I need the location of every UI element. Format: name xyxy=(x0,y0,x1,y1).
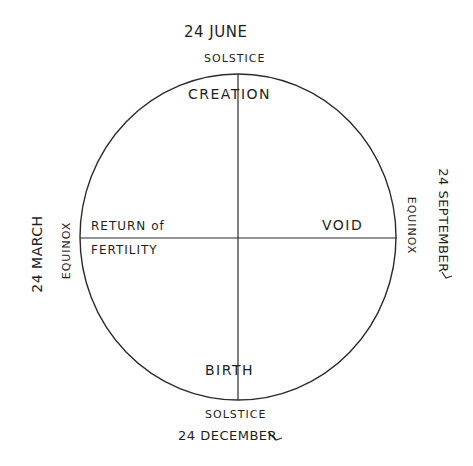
marker-winter-solstice: SOLSTICE xyxy=(205,409,266,420)
quadrant-return-of-fertility-line2: FERTILITY xyxy=(91,244,158,256)
date-june: 24 JUNE xyxy=(184,25,247,40)
quadrant-return-of-fertility-line1: RETURN of xyxy=(91,220,165,232)
date-march: 24 MARCH xyxy=(30,209,44,299)
quadrant-void: VOID xyxy=(322,218,363,232)
marker-summer-solstice: SOLSTICE xyxy=(204,53,265,64)
seasonal-wheel-diagram: 24 JUNE SOLSTICE CREATION BIRTH SOLSTICE… xyxy=(0,0,473,466)
marker-autumn-equinox: EQUINOX xyxy=(406,196,417,256)
date-september: 24 SEPTEMBER xyxy=(437,166,450,276)
quadrant-creation: CREATION xyxy=(188,87,271,101)
date-december: 24 DECEMBER xyxy=(178,429,277,442)
quadrant-birth: BIRTH xyxy=(205,363,254,377)
marker-spring-equinox: EQUINOX xyxy=(61,221,72,281)
